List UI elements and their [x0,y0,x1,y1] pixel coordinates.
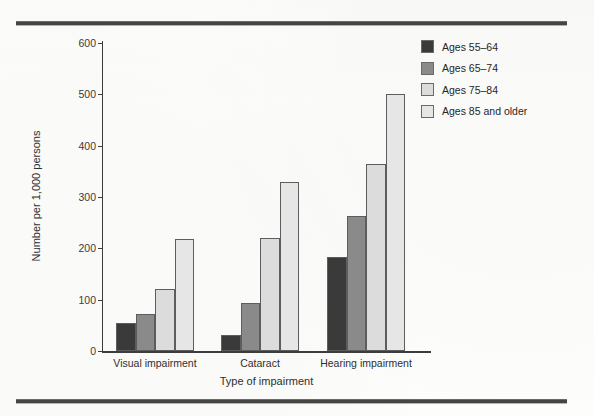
y-axis-tick-mark [98,94,103,95]
y-axis-tick-label: 600 [78,37,96,49]
bar[interactable] [366,164,386,351]
y-axis-tick-label: 100 [78,294,96,306]
figure-canvas: Number per 1,000 persons Type of impairm… [0,0,594,416]
bar[interactable] [386,94,406,351]
y-axis-tick-mark [98,197,103,198]
bar[interactable] [280,182,300,351]
y-axis-tick-mark [98,146,103,147]
x-axis-category-label: Visual impairment [113,357,196,369]
legend-label: Ages 65–74 [442,62,498,74]
y-axis-tick-label: 200 [78,242,96,254]
x-axis-title: Type of impairment [103,375,430,387]
legend-swatch [421,83,434,96]
legend-item[interactable]: Ages 65–74 [421,58,581,80]
legend-item[interactable]: Ages 55–64 [421,36,581,58]
y-axis-tick-label: 500 [78,88,96,100]
legend-item[interactable]: Ages 75–84 [421,79,581,101]
horizontal-rule-bottom [16,399,567,403]
y-axis-tick-mark [98,43,103,44]
legend-label: Ages 75–84 [442,84,498,96]
y-axis-line [102,41,103,351]
legend-swatch [421,62,434,75]
y-axis-tick-label: 300 [78,191,96,203]
bar[interactable] [327,257,347,351]
y-axis-tick-mark [98,300,103,301]
y-axis-tick-label: 0 [90,345,96,357]
horizontal-rule-top [16,21,567,25]
bar[interactable] [260,238,280,351]
bar[interactable] [221,335,241,351]
bar[interactable] [155,289,175,351]
y-axis-tick-mark [98,351,103,352]
legend-item[interactable]: Ages 85 and older [421,101,581,123]
bar[interactable] [241,303,261,351]
y-axis-tick-label: 400 [78,140,96,152]
bar-group [116,43,194,351]
plot-area: 0100200300400500600 Visual impairmentCat… [103,43,430,351]
legend-swatch [421,105,434,118]
bar[interactable] [175,239,195,351]
x-axis-category-label: Cataract [240,357,280,369]
chart-legend: Ages 55–64Ages 65–74Ages 75–84Ages 85 an… [421,36,581,122]
bar[interactable] [116,323,136,351]
bar-group [327,43,405,351]
bar-group [221,43,299,351]
y-axis-title: Number per 1,000 persons [30,131,42,262]
bar[interactable] [347,216,367,351]
x-axis-line [102,351,431,353]
legend-swatch [421,40,434,53]
x-axis-category-label: Hearing impairment [320,357,412,369]
legend-label: Ages 55–64 [442,41,498,53]
bar[interactable] [136,314,156,351]
legend-label: Ages 85 and older [442,105,527,117]
y-axis-tick-mark [98,248,103,249]
